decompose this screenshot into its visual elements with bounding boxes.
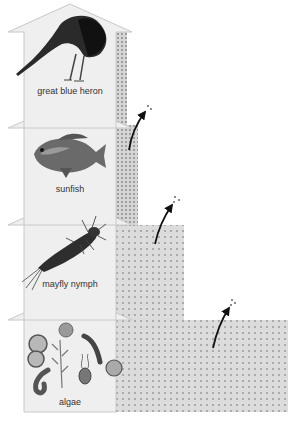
label-sunfish: sunfish <box>15 184 125 194</box>
label-heron: great blue heron <box>15 86 125 96</box>
energy-box-level-2 <box>116 225 184 321</box>
energy-box-level-1 <box>116 320 288 412</box>
label-mayfly: mayfly nymph <box>15 279 125 289</box>
label-algae: algae <box>15 397 125 407</box>
energy-box-level-3 <box>116 125 138 226</box>
energy-pyramid-diagram <box>0 0 296 428</box>
energy-box-level-4 <box>116 32 127 126</box>
